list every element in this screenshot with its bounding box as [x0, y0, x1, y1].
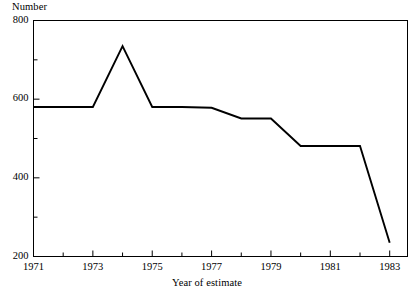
y-axis-ticks — [34, 21, 40, 257]
x-axis-ticks — [34, 251, 390, 257]
x-tick-label: 1979 — [251, 261, 291, 272]
data-series-line — [34, 46, 390, 243]
x-tick-label: 1971 — [14, 261, 54, 272]
x-tick-label: 1975 — [132, 261, 172, 272]
chart-plot-area — [0, 0, 414, 295]
x-tick-label: 1973 — [73, 261, 113, 272]
plot-frame — [34, 21, 408, 257]
x-tick-label: 1977 — [192, 261, 232, 272]
x-tick-label: 1981 — [310, 261, 350, 272]
y-tick-label: 200 — [1, 250, 29, 261]
y-tick-label: 400 — [1, 171, 29, 182]
x-tick-label: 1983 — [370, 261, 410, 272]
x-axis-title: Year of estimate — [0, 277, 414, 288]
series-line — [34, 46, 390, 243]
plot-border — [34, 21, 408, 257]
y-tick-label: 600 — [1, 92, 29, 103]
y-tick-label: 800 — [1, 14, 29, 25]
line-chart-figure: Number 200400600800 19711973197519771979… — [0, 0, 414, 295]
